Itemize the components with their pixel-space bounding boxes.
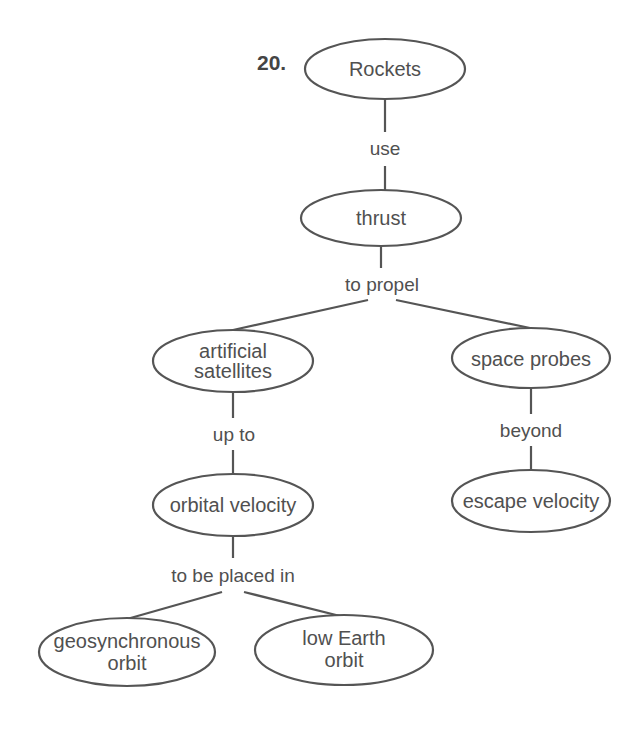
- node-geosynchronous-orbit: geosynchronous orbit: [39, 618, 215, 686]
- node-text-line-2: satellites: [194, 360, 272, 382]
- node-text: escape velocity: [463, 490, 600, 512]
- node-thrust: thrust: [301, 190, 461, 246]
- edge-topropel-satellites: [233, 300, 368, 330]
- question-number: 20.: [257, 51, 286, 74]
- node-artificial-satellites: artificial satellites: [153, 330, 313, 392]
- link-label-to-propel: to propel: [345, 274, 419, 295]
- node-text-line-1: artificial: [199, 340, 267, 362]
- node-text: thrust: [356, 207, 406, 229]
- node-text-line-1: low Earth: [302, 627, 385, 649]
- node-text-line-2: orbit: [108, 652, 147, 674]
- concept-map: use to propel up to beyond to be placed …: [0, 0, 642, 729]
- node-space-probes: space probes: [452, 328, 610, 388]
- link-label-to-be-placed-in: to be placed in: [171, 565, 295, 586]
- edge-placed-leo: [244, 592, 344, 617]
- node-text: space probes: [471, 348, 591, 370]
- link-label-up-to: up to: [213, 424, 255, 445]
- node-text-line-1: geosynchronous: [54, 630, 201, 652]
- node-text: Rockets: [349, 58, 421, 80]
- node-text: orbital velocity: [170, 494, 297, 516]
- link-label-use: use: [370, 138, 401, 159]
- edge-placed-geo: [127, 592, 222, 619]
- node-rockets: Rockets: [305, 39, 465, 99]
- node-escape-velocity: escape velocity: [452, 470, 610, 532]
- node-text-line-2: orbit: [325, 649, 364, 671]
- link-label-beyond: beyond: [500, 420, 562, 441]
- node-low-earth-orbit: low Earth orbit: [255, 615, 433, 685]
- node-orbital-velocity: orbital velocity: [153, 474, 313, 536]
- edge-topropel-probes: [396, 300, 530, 328]
